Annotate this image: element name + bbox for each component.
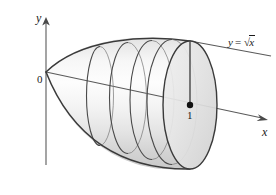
figure-canvas	[0, 0, 276, 195]
curve-equation: y=√x	[228, 37, 255, 48]
y-axis	[42, 17, 50, 165]
origin-label: 0	[37, 74, 43, 85]
y-axis-label: y	[36, 12, 41, 24]
curve-equation-label: y=√x	[228, 37, 255, 48]
square-root-icon: √x	[243, 37, 255, 48]
marked-point-dot	[187, 102, 193, 108]
x-axis-label: x	[262, 126, 267, 138]
solid-of-revolution-figure: y x 0 1 y=√x	[0, 0, 276, 195]
x-value-one-label: 1	[187, 110, 193, 121]
radical-argument: x	[249, 35, 255, 48]
curve-equation-equals: =	[233, 36, 243, 48]
